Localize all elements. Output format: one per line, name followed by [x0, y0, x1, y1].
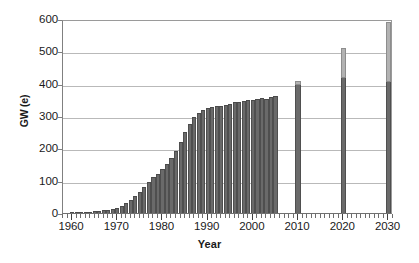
x-axis-tick-label: 2000	[230, 220, 274, 232]
bar-historical	[273, 96, 277, 213]
x-axis-tick-minor	[338, 214, 339, 218]
x-axis-tick-minor	[383, 214, 384, 218]
x-axis-tick-minor	[157, 214, 158, 218]
x-axis-tick-minor	[279, 214, 280, 218]
x-axis-tick-minor	[85, 214, 86, 218]
x-axis-tick-major	[387, 214, 388, 220]
x-axis-tick-label: 2020	[320, 220, 364, 232]
x-axis-tick-minor	[315, 214, 316, 218]
x-axis-tick-minor	[302, 214, 303, 218]
bar-historical	[88, 212, 92, 213]
bar-historical	[219, 106, 223, 213]
x-axis-tick-minor	[184, 214, 185, 218]
x-axis-tick-minor	[130, 214, 131, 218]
x-axis-tick-minor	[76, 214, 77, 218]
bar-historical	[264, 99, 268, 213]
x-axis-tick-major	[252, 214, 253, 220]
y-axis-tick-label: 100	[12, 176, 58, 188]
x-axis-tick-minor	[347, 214, 348, 218]
bar-projection-lower	[295, 85, 300, 213]
bar-historical	[192, 117, 196, 213]
x-axis-tick-minor	[121, 214, 122, 218]
x-axis-tick-minor	[202, 214, 203, 218]
bar-projection-lower	[386, 82, 391, 213]
bar-projection-lower	[341, 78, 346, 213]
y-axis-tick-label: 0	[12, 208, 58, 220]
x-axis-tick-minor	[220, 214, 221, 218]
y-axis-tick-label: 200	[12, 143, 58, 155]
bar-historical	[206, 108, 210, 213]
x-axis-tick-minor	[80, 214, 81, 218]
x-axis-title: Year	[0, 238, 419, 250]
nuclear-capacity-chart: 0100200300400500600 GW (e) 1960197019801…	[0, 0, 419, 263]
bar-historical	[233, 102, 237, 213]
x-axis-tick-minor	[125, 214, 126, 218]
bar-historical	[133, 196, 137, 213]
x-axis-tick-minor	[94, 214, 95, 218]
x-axis-tick-minor	[229, 214, 230, 218]
x-axis-tick-major	[297, 214, 298, 220]
x-axis-tick-minor	[243, 214, 244, 218]
x-axis-tick-minor	[378, 214, 379, 218]
x-axis-tick-major	[207, 214, 208, 220]
x-axis-tick-minor	[306, 214, 307, 218]
y-axis-tick-label: 600	[12, 14, 58, 26]
x-axis-tick-minor	[374, 214, 375, 218]
bar-historical	[246, 100, 250, 213]
bar-historical	[160, 169, 164, 213]
x-axis-tick-minor	[333, 214, 334, 218]
x-axis-tick-minor	[112, 214, 113, 218]
x-axis-tick-label: 1980	[139, 220, 183, 232]
x-axis-tick-major	[161, 214, 162, 220]
x-axis-tick-minor	[216, 214, 217, 218]
x-axis-tick-minor	[293, 214, 294, 218]
y-axis-tick-label: 500	[12, 46, 58, 58]
x-axis-tick-minor	[98, 214, 99, 218]
x-axis-tick-label: 1960	[49, 220, 93, 232]
x-axis-tick-minor	[351, 214, 352, 218]
x-axis-tick-minor	[238, 214, 239, 218]
x-axis-tick-minor	[62, 214, 63, 218]
x-axis-tick-minor	[311, 214, 312, 218]
x-axis-tick-label: 2030	[365, 220, 409, 232]
x-axis-tick-minor	[256, 214, 257, 218]
bar-historical	[120, 206, 124, 213]
x-axis-tick-minor	[288, 214, 289, 218]
x-axis-tick-minor	[234, 214, 235, 218]
x-axis-tick-label: 1990	[185, 220, 229, 232]
x-axis-tick-minor	[67, 214, 68, 218]
bar-projection-upper	[386, 22, 391, 82]
bar-historical	[106, 210, 110, 213]
x-axis-tick-minor	[270, 214, 271, 218]
x-axis-tick-minor	[265, 214, 266, 218]
x-axis-tick-minor	[329, 214, 330, 218]
x-axis-tick-minor	[189, 214, 190, 218]
x-axis-tick-label: 2010	[275, 220, 319, 232]
x-axis-tick-major	[71, 214, 72, 220]
x-axis-tick-minor	[103, 214, 104, 218]
bar-historical	[174, 151, 178, 213]
x-axis-tick-labels: 19601970198019902000201020202030	[0, 220, 419, 236]
x-axis-tick-minor	[175, 214, 176, 218]
x-axis-tick-minor	[152, 214, 153, 218]
x-axis-tick-minor	[324, 214, 325, 218]
x-axis-tick-minor	[170, 214, 171, 218]
x-axis-tick-minor	[356, 214, 357, 218]
x-axis-tick-minor	[139, 214, 140, 218]
x-axis-tick-label: 1970	[94, 220, 138, 232]
bar-historical	[147, 182, 151, 213]
bar-projection-upper	[341, 48, 346, 78]
x-axis-tick-minor	[247, 214, 248, 218]
x-axis-tick-minor	[198, 214, 199, 218]
x-axis-tick-minor	[392, 214, 393, 218]
x-axis-tick-minor	[193, 214, 194, 218]
x-axis-tick-major	[116, 214, 117, 220]
x-axis-tick-minor	[211, 214, 212, 218]
x-axis-tick-minor	[225, 214, 226, 218]
x-axis-tick-minor	[360, 214, 361, 218]
x-axis-tick-minor	[148, 214, 149, 218]
plot-area	[62, 20, 392, 214]
x-axis-tick-minor	[180, 214, 181, 218]
x-axis-tick-minor	[143, 214, 144, 218]
x-axis-tick-minor	[365, 214, 366, 218]
